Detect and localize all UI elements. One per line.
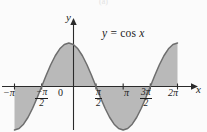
- x-tick-label-2pi: 2π: [168, 88, 178, 98]
- fraction-denominator: 2: [95, 98, 102, 109]
- fraction-denominator: 2: [140, 98, 152, 109]
- fraction-pi-half: π 2: [95, 88, 102, 108]
- fraction-neg-pi-half: −π 2: [35, 88, 48, 108]
- fraction-numerator: 3π: [140, 88, 152, 98]
- fraction-numerator: π: [95, 88, 102, 98]
- equation-equals: =: [107, 27, 120, 39]
- x-tick-label-pi-half: π 2: [95, 88, 102, 108]
- x-axis-label: x: [196, 84, 201, 95]
- x-tick-label-pi: π: [124, 88, 129, 98]
- equation-variable: x: [139, 27, 144, 39]
- x-tick-label-zero: 0: [58, 88, 63, 98]
- fraction-denominator: 2: [35, 98, 48, 109]
- equation-annotation: y = cos x: [102, 28, 144, 40]
- cosine-area-figure: (a) y x y = cos x −π −π 2 0 π 2: [0, 0, 207, 132]
- fraction-numerator: −π: [35, 88, 48, 98]
- fraction-3pi-half: 3π 2: [140, 88, 152, 108]
- equation-function-name: cos: [120, 27, 136, 39]
- x-tick-label-neg-pi-half: −π 2: [35, 88, 48, 108]
- cosine-plot-svg: [0, 0, 207, 132]
- y-axis-arrow-icon: [70, 18, 76, 25]
- y-axis-label: y: [66, 12, 71, 23]
- x-tick-label-3pi-half: 3π 2: [140, 88, 152, 108]
- x-tick-label-neg-pi: −π: [3, 88, 15, 98]
